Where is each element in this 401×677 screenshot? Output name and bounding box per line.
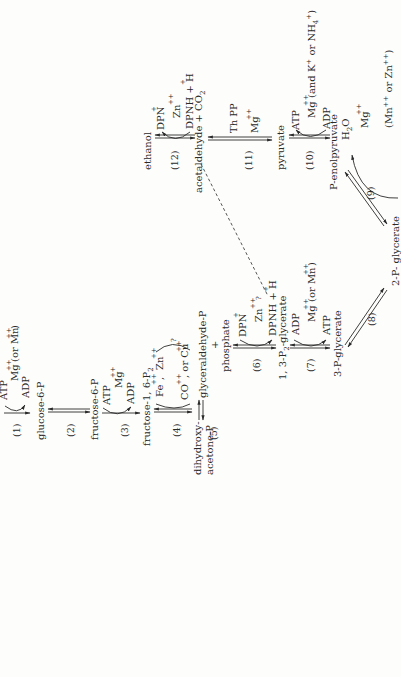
step-8: (8)	[345, 288, 387, 347]
step-11-thpp: Th PP	[228, 103, 239, 133]
step-10-alt-k: (and K	[306, 64, 317, 98]
step-9-h2o: H2O	[340, 119, 354, 140]
metabolite-phosphate: phosphate	[220, 319, 231, 372]
step-9-mg-charge: ++	[355, 103, 363, 115]
step-1-cofactor-arc	[5, 405, 25, 411]
metabolite-glyceraldehyde-p: glyceraldehyde-P	[197, 310, 208, 398]
step-9-alt: (Mn++ or Zn++)	[382, 49, 394, 128]
step-4-zn-charge: ++	[150, 347, 158, 359]
step-9: H2O Mg ++ (Mn++ or Zn++) (9)	[340, 49, 398, 226]
pathway-svg: ATP Mg ++ (or Mn ++ ) ADP (1) glucose-6-…	[0, 0, 401, 677]
step-12: DPN + Zn ++ DPNH + H + (12)	[150, 73, 195, 170]
step-12-zn: Zn	[171, 104, 182, 118]
step-11: Th PP Mg ++ (11)	[208, 103, 272, 170]
step-9-label: (9)	[365, 187, 376, 200]
step-7-alt-close: )	[306, 262, 317, 266]
step-8-label: (8)	[366, 313, 377, 326]
step-4-comma: ,	[154, 377, 165, 380]
metabolite-acetaldehyde-co2: acetaldehyde + CO2	[193, 91, 207, 193]
step-10-label: (10)	[304, 150, 315, 170]
step-4-question: ?	[170, 338, 178, 342]
step-8-arrow-fwd	[345, 288, 384, 345]
step-11-label: (11)	[243, 150, 254, 170]
step-1-adp: ADP	[20, 376, 31, 399]
step-4-co: CO	[179, 384, 190, 400]
step-9-alt-zn: or Zn	[383, 65, 394, 96]
step-9-alt-close: )	[383, 49, 394, 53]
step-10-nh4-sub: 4	[312, 19, 320, 24]
step-9-zn-charge: ++	[382, 53, 390, 65]
h2o-o: O	[340, 119, 351, 127]
metabolite-3-p-glycerate: 3-P-glycerate	[332, 310, 343, 377]
step-12-label: (12)	[169, 150, 180, 170]
step-6-label: (6)	[251, 359, 262, 372]
step-3-adp: ADP	[125, 382, 136, 405]
step-10: ATP Mg ++ (and K+ or NH4+) ADP (10)	[289, 10, 332, 170]
dpnh-shuttle-dashed-line	[201, 164, 268, 296]
step-6-dpn-charge: +	[232, 312, 240, 318]
step-7: ADP Mg ++ (or Mn ++ ) ATP (7)	[290, 262, 332, 372]
step-4-label: (4)	[171, 424, 182, 437]
step-11-mg-charge: ++	[245, 108, 253, 120]
co2-sub: 2	[199, 91, 207, 95]
step-5-label: (5)	[208, 427, 219, 440]
step-1-alt-close: )	[9, 325, 20, 329]
metabolite-ethanol: ethanol	[142, 132, 153, 170]
bpg-suffix: -glycerate	[277, 295, 288, 346]
step-1-atp: ATP	[0, 380, 9, 401]
step-12-zn-charge: ++	[167, 93, 175, 105]
step-10-alt-close: )	[306, 10, 317, 14]
step-10-alt: (and K+ or NH4+)	[305, 10, 320, 98]
pathway-diagram: ATP Mg ++ (or Mn ++ ) ADP (1) glucose-6-…	[0, 0, 401, 677]
step-2: (2)	[48, 409, 90, 437]
step-1-label: (1)	[11, 424, 22, 437]
step-12-dpn-charge: +	[150, 106, 158, 112]
step-5: dihydroxy- acetone-P (5)	[192, 400, 219, 475]
step-2-label: (2)	[65, 424, 76, 437]
metabolite-1-3-p2-glycerate: 1, 3-P2-glycerate	[277, 295, 291, 380]
step-7-adp: ADP	[290, 313, 301, 336]
step-3-label: (3)	[119, 424, 130, 437]
step-3: ATP Mg ++ ADP (3)	[101, 366, 140, 437]
step-4-fe: Fe	[154, 385, 165, 397]
step-10-atp: ATP	[290, 110, 301, 131]
metabolite-2-p-glycerate: 2-P- glycerate	[390, 216, 401, 286]
metabolite-pyruvate: pyruvate	[275, 125, 286, 170]
step-3-atp: ATP	[101, 385, 112, 406]
step-7-label: (7)	[305, 359, 316, 372]
step-6: DPN + Zn ++ ? DPNH + H + (6)	[232, 280, 278, 372]
step-6-question: ?	[255, 296, 263, 300]
h2o-h: H	[340, 131, 351, 140]
metabolite-dihydroxy: dihydroxy-	[192, 421, 203, 475]
metabolite-p-enolpyruvate: P-enolpyruvate	[328, 114, 339, 190]
step-3-metal-charge: ++	[109, 366, 117, 378]
plus-sign: +	[209, 341, 220, 349]
acetaldehyde-text: acetaldehyde + CO	[193, 95, 204, 193]
step-9-alt-mn: (Mn	[383, 107, 394, 128]
step-1: ATP Mg ++ (or Mn ++ ) ADP (1)	[0, 325, 31, 437]
step-9-mn-charge: ++	[382, 96, 390, 108]
step-12-dpnh-charge: +	[179, 79, 187, 85]
step-6-zn: Zn	[253, 308, 264, 322]
step-10-alt-nh: or NH	[306, 24, 317, 59]
metabolite-glucose-6-p: glucose-6-P	[35, 381, 46, 440]
step-4: Fe ++ , Zn ++ CO ++ , or Cu ++ ? (4)	[150, 338, 192, 437]
step-4-metal-arc	[156, 404, 190, 408]
metabolite-fructose-6-p: fructose-6-P	[89, 378, 100, 440]
bpg-prefix: 1, 3-P	[277, 351, 288, 380]
step-7-atp: ATP	[321, 315, 332, 336]
